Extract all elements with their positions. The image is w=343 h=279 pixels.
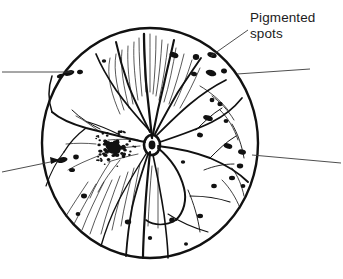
pigmented-spot bbox=[237, 164, 243, 169]
macula-dot bbox=[102, 152, 105, 155]
pigmented-spot bbox=[102, 59, 106, 63]
pigmented-spot bbox=[241, 184, 246, 188]
macula-core bbox=[107, 142, 121, 154]
pigmented-spot bbox=[210, 98, 215, 102]
pigmented-spot bbox=[76, 212, 81, 216]
macula-dot bbox=[96, 159, 98, 161]
macula-dot bbox=[134, 146, 136, 148]
pigmented-spot bbox=[81, 194, 87, 199]
label-pigmented-spots: Pigmented spots bbox=[250, 10, 315, 41]
macula-dot bbox=[97, 156, 99, 158]
macula-dot bbox=[98, 139, 100, 141]
macula-dot bbox=[97, 135, 99, 137]
macula-dot bbox=[100, 158, 102, 160]
macula-dot bbox=[116, 166, 118, 168]
macula-dot bbox=[104, 163, 106, 165]
macula-dot bbox=[103, 148, 107, 151]
pigmented-spot bbox=[197, 214, 203, 218]
macula-dot bbox=[103, 139, 106, 142]
pigmented-spot bbox=[181, 160, 185, 164]
macula-dot bbox=[107, 158, 111, 161]
pigmented-spot bbox=[169, 217, 175, 222]
macula-dot bbox=[128, 140, 131, 142]
macula-dot bbox=[128, 154, 131, 156]
macula-dot bbox=[129, 150, 131, 152]
macula-dot bbox=[111, 154, 115, 157]
macula-dot bbox=[97, 143, 100, 146]
macula-dot bbox=[101, 132, 104, 134]
pigmented-spot bbox=[229, 176, 235, 180]
label-pigmented-spots-line1: Pigmented bbox=[250, 10, 315, 26]
pigmented-spot bbox=[148, 236, 152, 240]
macula-dot bbox=[106, 132, 109, 134]
pigmented-spot bbox=[193, 54, 199, 60]
macula-dot bbox=[123, 153, 127, 156]
macula-dot bbox=[116, 139, 120, 142]
macula-dot bbox=[95, 138, 97, 140]
optic-disc-cup bbox=[149, 141, 156, 150]
macula-dot bbox=[118, 131, 120, 133]
pigmented-spot bbox=[73, 155, 79, 160]
macula-dot bbox=[106, 135, 109, 137]
macula-dot bbox=[98, 150, 101, 153]
label-pigmented-spots-line2: spots bbox=[250, 26, 315, 42]
pigmented-spot bbox=[211, 184, 217, 188]
pigmented-spot bbox=[224, 119, 229, 123]
macula-dot bbox=[124, 131, 126, 133]
retinal-fundus-figure: Pigmented spots bbox=[0, 0, 343, 279]
pigmented-spot bbox=[184, 242, 188, 246]
pigmented-spot bbox=[69, 168, 75, 172]
fundus-drawing bbox=[0, 0, 343, 279]
macula-dot bbox=[99, 153, 102, 156]
pigmented-spot bbox=[217, 102, 222, 106]
macula-dot bbox=[125, 143, 128, 146]
macula-dot bbox=[100, 160, 102, 162]
pigmented-spot bbox=[125, 220, 131, 225]
macula-dot bbox=[121, 146, 125, 150]
